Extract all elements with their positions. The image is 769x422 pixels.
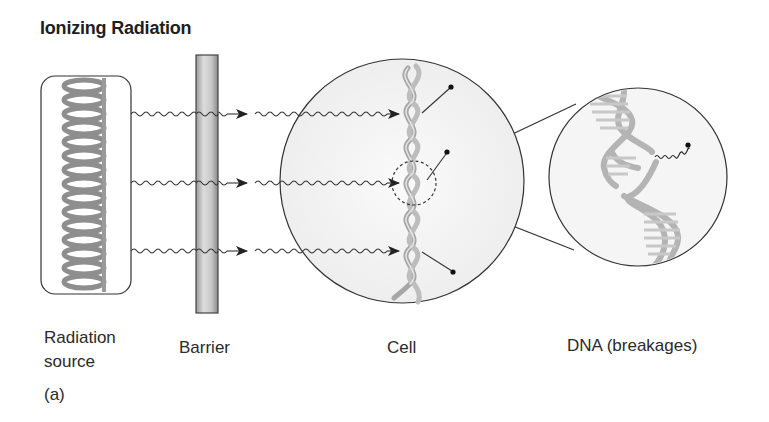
dna-zoom <box>549 80 727 272</box>
radiation-source <box>41 76 131 294</box>
label-radiation-source: Radiation source <box>44 326 144 374</box>
label-dna-breakages: DNA (breakages) <box>567 334 697 358</box>
ray-bottom <box>131 249 247 253</box>
ray-middle <box>131 181 247 185</box>
figure-part-label: (a) <box>44 383 65 407</box>
label-cell: Cell <box>387 336 416 360</box>
cell <box>255 59 524 303</box>
label-radiation-source-line1: Radiation <box>44 326 144 350</box>
radiation-rays <box>131 112 247 253</box>
label-barrier: Barrier <box>179 336 230 360</box>
ray-top <box>131 112 247 116</box>
label-radiation-source-line2: source <box>44 350 144 374</box>
